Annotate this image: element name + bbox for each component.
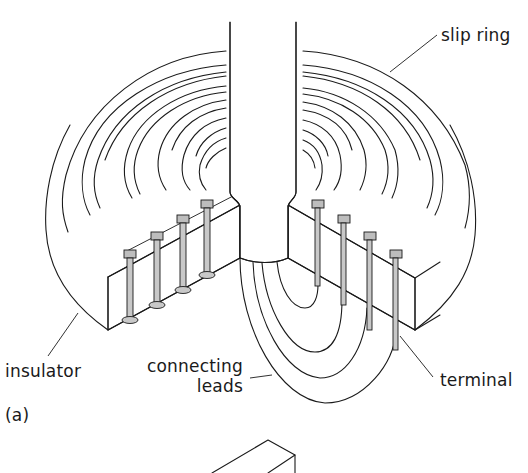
label-connecting-leads-line2: leads — [145, 377, 243, 395]
terminal-leader — [400, 336, 433, 377]
shaft — [230, 22, 296, 263]
label-insulator: insulator — [5, 362, 81, 380]
label-slip-ring: slip ring — [441, 26, 511, 44]
connecting-leads-leader — [250, 375, 272, 378]
slip-rings-right — [303, 65, 443, 215]
lower-figure-box — [212, 440, 295, 473]
slip-ring-leader — [390, 35, 437, 72]
insulator-leader — [48, 313, 78, 356]
label-terminal: terminal — [440, 371, 513, 389]
slip-rings-left — [82, 65, 226, 215]
slip-ring-figure: slip ring insulator connecting leads ter… — [0, 0, 528, 473]
panel-label: (a) — [5, 406, 29, 424]
insulator-block-right — [288, 205, 440, 330]
slip-ring-drawing — [0, 0, 528, 473]
label-connecting-leads-line1: connecting — [145, 357, 243, 375]
